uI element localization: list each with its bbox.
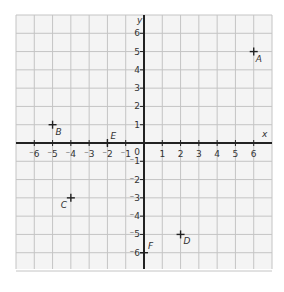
y-tick-label: ⁻4: [130, 211, 141, 221]
x-tick-label: 6: [251, 149, 257, 159]
y-tick-label: ⁻6: [130, 248, 141, 258]
point-label-f: F: [148, 241, 154, 251]
x-tick-label: 1: [159, 149, 165, 159]
y-tick-label: 1: [134, 120, 140, 130]
y-tick-label: 3: [134, 83, 140, 93]
x-tick-label: ⁻6: [29, 149, 40, 159]
y-tick-label: ⁻3: [130, 193, 140, 203]
y-tick-label: 5: [134, 47, 140, 57]
x-tick-label: ⁻2: [102, 149, 112, 159]
coordinate-grid-chart: xy ⁻6⁻5⁻4⁻3⁻2⁻1123456654321⁻1⁻2⁻3⁻4⁻5⁻60…: [0, 0, 284, 292]
y-tick-label: 4: [134, 65, 140, 75]
point-label-c: C: [61, 200, 68, 210]
y-tick-label: 6: [134, 28, 140, 38]
point-label-b: B: [56, 127, 62, 137]
x-tick-label: 5: [233, 149, 239, 159]
y-tick-label: 2: [134, 101, 140, 111]
chart-svg: xy ⁻6⁻5⁻4⁻3⁻2⁻1123456654321⁻1⁻2⁻3⁻4⁻5⁻60…: [0, 0, 284, 292]
x-tick-label: ⁻3: [84, 149, 94, 159]
x-tick-label: ⁻5: [47, 149, 57, 159]
y-tick-label: ⁻5: [130, 229, 140, 239]
y-tick-label: ⁻1: [130, 156, 140, 166]
x-axis-label: x: [261, 129, 268, 139]
x-tick-label: 3: [196, 149, 202, 159]
point-label-a: A: [255, 54, 262, 64]
x-tick-label: 4: [214, 149, 220, 159]
point-label-d: D: [184, 236, 191, 246]
x-tick-label: ⁻4: [66, 149, 77, 159]
y-axis-label: y: [136, 15, 143, 25]
x-tick-label: 2: [178, 149, 184, 159]
origin-label: 0: [134, 147, 140, 157]
y-tick-label: ⁻2: [130, 175, 140, 185]
point-label-e: E: [110, 131, 116, 141]
